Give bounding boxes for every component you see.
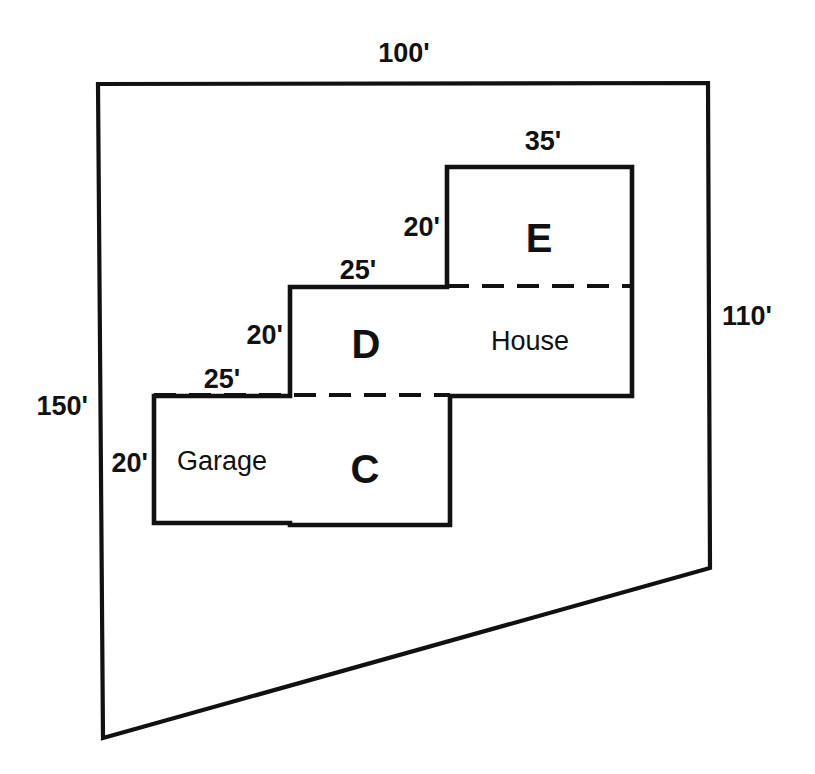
room-label-house: House <box>491 326 569 356</box>
lot-plan-diagram: 100' 110' 150' 35' 20' 25' 20' 25' 20' E… <box>0 0 815 774</box>
dimension-label-e-top: 35' <box>525 126 561 156</box>
dimension-label-garage-left: 20' <box>112 448 148 478</box>
room-label-garage: Garage <box>177 446 267 476</box>
dimension-label-garage-top: 25' <box>204 364 240 394</box>
property-boundary-outline <box>98 83 710 738</box>
dimension-label-lot-left: 150' <box>37 391 88 421</box>
dimension-label-d-left: 20' <box>247 320 283 350</box>
dimension-label-d-top: 25' <box>340 255 376 285</box>
dimension-label-lot-top: 100' <box>378 38 429 68</box>
dimension-label-e-left: 20' <box>404 212 440 242</box>
dimension-label-lot-right: 110' <box>722 301 772 331</box>
zone-label-d: D <box>352 322 381 366</box>
zone-label-e: E <box>526 216 553 260</box>
plan-drawing-canvas: 100' 110' 150' 35' 20' 25' 20' 25' 20' E… <box>0 0 815 774</box>
zone-label-c: C <box>351 447 380 491</box>
